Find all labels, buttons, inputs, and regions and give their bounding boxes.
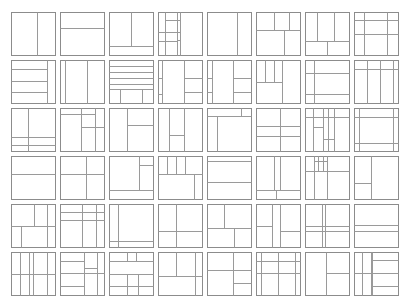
- subdivision-tile: [60, 252, 105, 296]
- subdivision-tile: [305, 252, 350, 296]
- subdivision-tile: [354, 12, 399, 56]
- subdivision-tile: [256, 204, 301, 248]
- tile-drawing: [354, 108, 399, 152]
- tile-drawing: [354, 204, 399, 248]
- tile-drawing: [354, 156, 399, 200]
- tile-border: [110, 157, 154, 200]
- subdivision-tile: [256, 12, 301, 56]
- tile-drawing: [11, 12, 56, 56]
- tile-border: [208, 205, 252, 248]
- tile-drawing: [207, 204, 252, 248]
- tile-drawing: [158, 204, 203, 248]
- tile-drawing: [158, 12, 203, 56]
- subdivision-tile: [354, 156, 399, 200]
- subdivision-tile: [158, 252, 203, 296]
- tile-drawing: [256, 204, 301, 248]
- tile-border: [306, 109, 350, 152]
- tile-border: [306, 61, 350, 104]
- tile-drawing: [158, 252, 203, 296]
- tile-drawing: [354, 252, 399, 296]
- tile-drawing: [60, 252, 105, 296]
- subdivision-tile: [109, 156, 154, 200]
- tile-border: [355, 157, 399, 200]
- tile-drawing: [256, 156, 301, 200]
- tile-drawing: [158, 108, 203, 152]
- tile-drawing: [109, 108, 154, 152]
- tile-border: [257, 157, 301, 200]
- subdivision-tile: [11, 60, 56, 104]
- tile-border: [159, 157, 203, 200]
- tile-drawing: [11, 60, 56, 104]
- tile-drawing: [207, 12, 252, 56]
- subdivision-tile: [305, 204, 350, 248]
- tile-border: [208, 157, 252, 200]
- tile-drawing: [256, 12, 301, 56]
- tile-drawing: [305, 12, 350, 56]
- subdivision-tile: [11, 252, 56, 296]
- tile-drawing: [11, 156, 56, 200]
- subdivision-tile: [256, 108, 301, 152]
- tile-border: [257, 109, 301, 152]
- subdivision-tile: [158, 204, 203, 248]
- tile-drawing: [305, 60, 350, 104]
- subdivision-tile: [158, 156, 203, 200]
- tile-drawing: [60, 60, 105, 104]
- subdivision-tile: [354, 204, 399, 248]
- subdivision-tile: [109, 12, 154, 56]
- subdivision-grid: [0, 0, 403, 305]
- tile-drawing: [109, 204, 154, 248]
- tile-border: [61, 157, 105, 200]
- subdivision-tile: [109, 252, 154, 296]
- tile-drawing: [109, 12, 154, 56]
- tile-drawing: [109, 60, 154, 104]
- tile-drawing: [109, 156, 154, 200]
- subdivision-tile: [109, 204, 154, 248]
- tile-drawing: [354, 12, 399, 56]
- subdivision-tile: [60, 60, 105, 104]
- tile-drawing: [305, 156, 350, 200]
- subdivision-tile: [60, 108, 105, 152]
- tile-border: [208, 13, 252, 56]
- tile-drawing: [11, 252, 56, 296]
- subdivision-tile: [11, 108, 56, 152]
- subdivision-tile: [354, 60, 399, 104]
- subdivision-tile: [11, 156, 56, 200]
- tile-border: [355, 109, 399, 152]
- subdivision-tile: [354, 108, 399, 152]
- tile-drawing: [207, 252, 252, 296]
- tile-border: [159, 61, 203, 104]
- tile-drawing: [60, 108, 105, 152]
- subdivision-tile: [60, 156, 105, 200]
- tile-drawing: [60, 12, 105, 56]
- subdivision-tile: [158, 60, 203, 104]
- tile-border: [61, 61, 105, 104]
- subdivision-tile: [109, 108, 154, 152]
- subdivision-tile: [60, 204, 105, 248]
- subdivision-tile: [60, 12, 105, 56]
- subdivision-tile: [305, 60, 350, 104]
- tile-drawing: [207, 60, 252, 104]
- tile-drawing: [305, 204, 350, 248]
- subdivision-tile: [158, 108, 203, 152]
- tile-drawing: [207, 156, 252, 200]
- tile-drawing: [256, 252, 301, 296]
- subdivision-tile: [256, 252, 301, 296]
- tile-drawing: [109, 252, 154, 296]
- tile-drawing: [354, 60, 399, 104]
- subdivision-tile: [207, 60, 252, 104]
- tile-drawing: [11, 204, 56, 248]
- subdivision-tile: [305, 156, 350, 200]
- subdivision-tile: [158, 12, 203, 56]
- subdivision-tile: [109, 60, 154, 104]
- subdivision-tile: [207, 252, 252, 296]
- tile-border: [257, 13, 301, 56]
- subdivision-tile: [11, 12, 56, 56]
- tile-drawing: [256, 60, 301, 104]
- tile-drawing: [305, 108, 350, 152]
- tile-border: [110, 109, 154, 152]
- subdivision-tile: [305, 12, 350, 56]
- tile-drawing: [158, 60, 203, 104]
- subdivision-tile: [256, 60, 301, 104]
- tile-border: [208, 61, 252, 104]
- tile-border: [12, 157, 56, 200]
